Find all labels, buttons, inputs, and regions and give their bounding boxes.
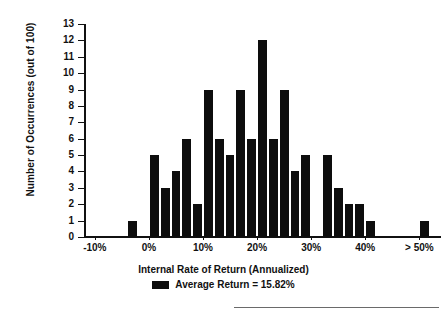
y-axis-tick-label: 13 xyxy=(52,19,74,29)
histogram-bar xyxy=(345,204,354,237)
x-axis-tick-label: 30% xyxy=(281,242,341,253)
y-axis-tick xyxy=(78,188,84,189)
legend-swatch-icon xyxy=(152,281,169,289)
y-axis-tick xyxy=(78,90,84,91)
y-axis-tick-label: 7 xyxy=(52,117,74,127)
y-axis-tick-label: 0 xyxy=(52,232,74,242)
x-axis-tick-label: 10% xyxy=(173,242,233,253)
y-axis-tick xyxy=(78,155,84,156)
histogram-bar xyxy=(150,155,159,237)
y-axis-tick xyxy=(78,122,84,123)
y-axis-tick xyxy=(78,221,84,222)
histogram-bar xyxy=(128,221,137,237)
y-axis-tick-label: 3 xyxy=(52,183,74,193)
y-axis-tick-label: 9 xyxy=(52,85,74,95)
plot-area xyxy=(84,24,441,237)
y-axis-tick-label: 2 xyxy=(52,199,74,209)
x-axis-tick-label: 40% xyxy=(335,242,395,253)
y-axis-tick-label: 8 xyxy=(52,101,74,111)
y-axis-title: Number of Occurrences (out of 100) xyxy=(25,10,36,210)
histogram-bar xyxy=(172,171,181,237)
histogram-bar xyxy=(204,90,213,237)
histogram-bar xyxy=(215,139,224,237)
y-axis-tick-label: 12 xyxy=(52,35,74,45)
histogram-bar xyxy=(161,188,170,237)
histogram-bar xyxy=(258,40,267,237)
histogram-bar xyxy=(236,90,245,237)
x-axis-tick-label: -10% xyxy=(65,242,125,253)
y-axis-tick xyxy=(78,24,84,25)
histogram-bar xyxy=(334,188,343,237)
chart-legend: Average Return = 15.82% xyxy=(0,279,447,290)
histogram-bar xyxy=(182,139,191,237)
y-axis-tick-label: 6 xyxy=(52,134,74,144)
histogram-bar xyxy=(355,204,364,237)
legend-label: Average Return = 15.82% xyxy=(175,279,294,290)
histogram-bar xyxy=(291,171,300,237)
histogram-bar xyxy=(226,155,235,237)
x-axis-tick-label: 0% xyxy=(119,242,179,253)
y-axis-tick-label: 5 xyxy=(52,150,74,160)
histogram-bar xyxy=(247,139,256,237)
histogram-bar xyxy=(193,204,202,237)
x-axis-tick-label: 20% xyxy=(227,242,287,253)
x-axis-tick-label: > 50% xyxy=(389,242,447,253)
y-axis-tick-label: 11 xyxy=(52,52,74,62)
histogram-bar xyxy=(366,221,375,237)
y-axis-tick xyxy=(78,171,84,172)
histogram-bar xyxy=(301,155,310,237)
histogram-figure: Number of Occurrences (out of 100) -10%0… xyxy=(0,0,447,314)
histogram-bar xyxy=(269,139,278,237)
histogram-bar xyxy=(323,155,332,237)
y-axis-tick xyxy=(78,57,84,58)
y-axis-tick xyxy=(78,204,84,205)
y-axis-tick-label: 4 xyxy=(52,166,74,176)
x-axis-title: Internal Rate of Return (Annualized) xyxy=(0,264,447,275)
y-axis-tick xyxy=(78,73,84,74)
y-axis-tick xyxy=(78,40,84,41)
y-axis-tick xyxy=(78,106,84,107)
histogram-bar xyxy=(420,221,429,237)
histogram-bar xyxy=(280,90,289,237)
y-axis-tick xyxy=(78,139,84,140)
footer-rule xyxy=(234,307,439,308)
y-axis-tick-label: 1 xyxy=(52,216,74,226)
y-axis-tick-label: 10 xyxy=(52,68,74,78)
y-axis-tick xyxy=(78,237,84,238)
